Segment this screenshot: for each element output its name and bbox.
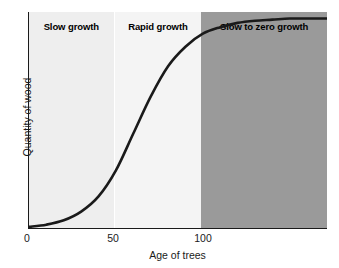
x-tick-label-50: 50	[104, 232, 122, 244]
x-tick-label-0: 0	[18, 232, 36, 244]
x-axis-title: Age of trees	[28, 249, 327, 261]
growth-curve-path	[29, 18, 327, 226]
growth-curve-line	[29, 12, 327, 229]
growth-curve-figure: Slow growth Rapid growth Slow to zero gr…	[0, 0, 339, 268]
plot-area: Slow growth Rapid growth Slow to zero gr…	[28, 12, 327, 229]
x-tick-label-100: 100	[191, 232, 215, 244]
y-axis-title: Quantity of wood	[21, 37, 33, 197]
